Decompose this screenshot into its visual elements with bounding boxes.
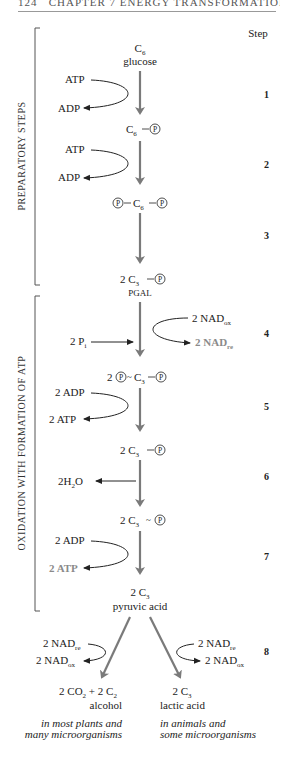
step-2-curve-arrow [84, 150, 128, 178]
svg-text:P: P [158, 516, 162, 525]
step-4-nad-re: 2 NADre [195, 336, 233, 351]
svg-text:C6: C6 [133, 197, 144, 212]
step-8-left-nad-ox: 2 NADox [36, 654, 76, 669]
step-5-atp: 2 ATP [49, 413, 76, 425]
svg-text:C3: C3 [134, 371, 145, 386]
step-8-right-nad-ox: 2 NADox [205, 654, 245, 669]
svg-text:2 CO2 + 2 C2: 2 CO2 + 2 C2 [59, 685, 117, 700]
step-8-left-nad-re: 2 NADre [43, 637, 81, 652]
compound-fructose-bisphosphate: P C6 P [113, 197, 167, 212]
arrow-to-alcohol [102, 617, 130, 677]
svg-text:many microorganisms: many microorganisms [25, 728, 122, 740]
step-number-4: 4 [264, 328, 269, 339]
step-5-adp: 2 ADP [55, 386, 85, 398]
svg-text:lactic acid: lactic acid [160, 699, 205, 711]
step-column-label: Step [248, 27, 268, 39]
oxidation-label: OXIDATION WITH FORMATION OF ATP [16, 356, 27, 551]
step-number-6: 6 [264, 471, 269, 482]
svg-text:2 C3: 2 C3 [130, 586, 150, 601]
preparatory-bracket [35, 28, 40, 285]
svg-text:P: P [119, 373, 123, 382]
step-7-curve-arrow [84, 541, 128, 568]
svg-text:~: ~ [127, 372, 132, 382]
step-4-phosphate-input: 2 Pi [70, 335, 86, 350]
oxidation-bracket [35, 296, 40, 611]
svg-text:P: P [158, 446, 162, 455]
step-number-7: 7 [264, 551, 269, 562]
svg-text:P: P [158, 275, 162, 284]
step-8-right-nad-re: 2 NADre [198, 637, 236, 652]
step-number-8: 8 [264, 646, 269, 657]
step-4-nad-ox: 2 NADox [192, 312, 232, 327]
svg-text:some microorganisms: some microorganisms [160, 728, 256, 740]
compound-glucose: C6 glucose [123, 42, 157, 67]
svg-text:2: 2 [107, 371, 113, 383]
svg-text:2 C3: 2 C3 [120, 514, 140, 529]
svg-text:alcohol: alcohol [90, 699, 122, 711]
preparatory-steps-label: PREPARATORY STEPS [16, 101, 27, 210]
step-2-adp: ADP [58, 171, 80, 183]
svg-text:P: P [159, 373, 163, 382]
compound-pyruvic-acid: 2 C3 pyruvic acid [113, 586, 168, 612]
compound-phosphoglycerate: 2 C3 P [120, 444, 165, 459]
svg-text:2 C3: 2 C3 [172, 685, 192, 700]
svg-text:PGAL: PGAL [128, 288, 152, 298]
glycolysis-diagram: Step PREPARATORY STEPS OXIDATION WITH FO… [0, 0, 288, 774]
svg-text:~: ~ [146, 515, 151, 525]
step-1-adp: ADP [58, 102, 80, 114]
step-6-water: 2H2O [58, 475, 83, 490]
product-lactic-acid: 2 C3 lactic acid in animals and some mic… [160, 685, 256, 740]
step-number-3: 3 [264, 230, 269, 241]
svg-text:P: P [116, 199, 120, 208]
step-2-atp: ATP [65, 143, 85, 155]
step-1-atp: ATP [65, 73, 85, 85]
step-8-right-curve-arrow [177, 644, 200, 661]
step-7-atp: 2 ATP [49, 562, 78, 574]
svg-text:P: P [160, 199, 164, 208]
svg-text:2 C3: 2 C3 [120, 444, 140, 459]
arrow-to-lactic-acid [150, 617, 180, 677]
svg-text:pyruvic acid: pyruvic acid [113, 600, 168, 612]
compound-phosphoenolpyruvate: 2 C3 ~ P [120, 514, 165, 529]
step-number-1: 1 [264, 89, 269, 100]
step-number-2: 2 [264, 159, 269, 170]
compound-c6-phosphate: C6 P [126, 123, 160, 138]
svg-text:2 C3: 2 C3 [120, 273, 140, 288]
product-alcohol: 2 CO2 + 2 C2 alcohol in most plants and … [25, 685, 123, 740]
svg-text:glucose: glucose [123, 55, 157, 67]
step-8-left-curve-arrow [84, 644, 106, 661]
step-number-5: 5 [264, 401, 269, 412]
step-5-curve-arrow [84, 393, 128, 419]
step-1-curve-arrow [84, 80, 128, 108]
compound-pgal: 2 C3 P PGAL [120, 273, 165, 298]
svg-text:P: P [153, 125, 157, 134]
svg-text:C6: C6 [126, 123, 137, 138]
compound-bisphosphoglycerate: 2 P ~ C3 P [107, 371, 166, 386]
step-4-curve-arrow [153, 318, 190, 343]
step-7-adp: 2 ADP [55, 534, 85, 546]
